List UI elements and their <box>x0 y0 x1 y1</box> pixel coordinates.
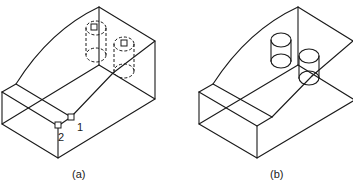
caption-b: (b) <box>270 168 283 180</box>
point-2-marker <box>55 122 61 128</box>
panel-b-wireframe <box>199 7 353 158</box>
panel-a-wireframe <box>2 7 155 158</box>
caption-a: (a) <box>72 168 85 180</box>
cylinder-2-marker <box>121 40 127 46</box>
point-1-marker <box>68 114 74 120</box>
panel-a-pick-markers: 1 2 <box>55 24 127 143</box>
cylinder-1-marker <box>91 24 97 30</box>
point-2-label: 2 <box>58 131 64 143</box>
point-1-label: 1 <box>77 121 83 133</box>
figure-canvas: 1 2 (a) (b) <box>0 0 353 183</box>
